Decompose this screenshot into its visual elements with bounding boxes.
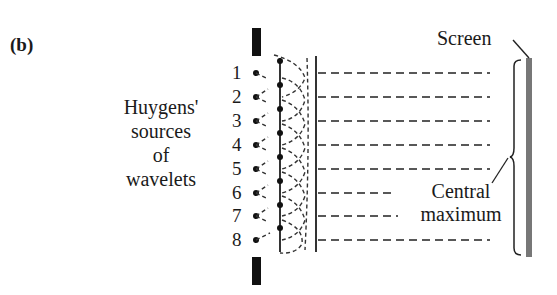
central-label-leader (492, 158, 508, 183)
huygens-diagram: (b) Huygens' sources of wavelets 1 2 3 4… (0, 0, 557, 295)
slit-edge-bottom (252, 257, 261, 285)
screen (526, 58, 532, 257)
slit-edge-top (252, 28, 261, 56)
central-maximum-brace (510, 60, 521, 255)
screen-label-leader (513, 40, 529, 58)
diagram-graphics (0, 0, 557, 295)
ray-dashes (318, 73, 490, 240)
